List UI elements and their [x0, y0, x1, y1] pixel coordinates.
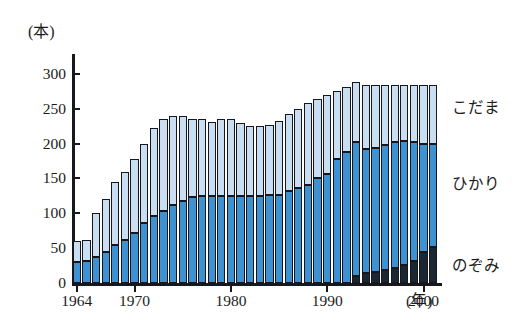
bar-segment	[419, 252, 427, 283]
y-tick-label: 0	[20, 275, 66, 291]
y-tick-label: 50	[20, 240, 66, 256]
legend-label-nozomi: のぞみ	[452, 258, 500, 274]
bar-segment	[159, 211, 167, 283]
bar-segment	[391, 85, 399, 142]
bar-segment	[236, 196, 244, 283]
bar-column	[140, 60, 148, 283]
bar-segment	[188, 197, 196, 283]
x-tick-label: 1970	[119, 293, 150, 309]
bar-segment	[246, 126, 254, 196]
bar-segment	[352, 276, 360, 283]
bar-segment	[419, 85, 427, 144]
bar-segment	[236, 123, 244, 196]
bar-column	[150, 60, 158, 283]
x-axis-line	[72, 283, 442, 286]
bar-segment	[217, 196, 225, 283]
bar-segment	[111, 182, 119, 245]
bar-segment	[400, 85, 408, 141]
y-tick-label: 200	[20, 136, 66, 152]
bar-segment	[400, 141, 408, 265]
bar-segment	[256, 126, 264, 196]
bar-column	[82, 60, 90, 283]
x-tick-label: 1980	[215, 293, 246, 309]
bar-column	[429, 60, 437, 283]
bar-column	[102, 60, 110, 283]
bar-segment	[419, 144, 427, 253]
bar-column	[342, 60, 350, 283]
bar-segment	[150, 128, 158, 216]
bar-segment	[179, 201, 187, 283]
bar-segment	[304, 185, 312, 283]
bar-segment	[429, 85, 437, 144]
bar-segment	[208, 196, 216, 283]
bar-segment	[208, 122, 216, 196]
bar-segment	[294, 188, 302, 283]
bar-segment	[410, 261, 418, 283]
bar-segment	[313, 99, 321, 178]
bar-segment	[265, 125, 273, 195]
bar-segment	[92, 257, 100, 283]
bar-segment	[227, 119, 235, 196]
bar-column	[391, 60, 399, 283]
bar-segment	[82, 261, 90, 283]
bar-segment	[73, 241, 81, 262]
bar-segment	[362, 85, 370, 149]
bar-segment	[159, 119, 167, 210]
bar-column	[265, 60, 273, 283]
bar-segment	[381, 85, 389, 145]
bar-column	[121, 60, 129, 283]
bar-column	[246, 60, 254, 283]
bar-column	[352, 60, 360, 283]
bar-column	[256, 60, 264, 283]
bar-column	[400, 60, 408, 283]
bar-column	[198, 60, 206, 283]
bar-segment	[111, 245, 119, 283]
y-tick-label: 150	[20, 171, 66, 187]
legend-label-hikari: ひかり	[452, 176, 500, 192]
bar-segment	[429, 247, 437, 283]
bar-segment	[362, 273, 370, 283]
bar-column	[130, 60, 138, 283]
bar-segment	[285, 191, 293, 283]
bar-segment	[371, 148, 379, 272]
bar-segment	[333, 91, 341, 159]
bar-column	[410, 60, 418, 283]
bar-segment	[313, 178, 321, 283]
bar-column	[275, 60, 283, 283]
bar-column	[92, 60, 100, 283]
bar-segment	[169, 116, 177, 205]
bar-segment	[217, 119, 225, 196]
bar-segment	[92, 213, 100, 256]
bar-segment	[275, 195, 283, 283]
bar-segment	[188, 119, 196, 197]
bar-segment	[150, 216, 158, 283]
bar-segment	[391, 268, 399, 283]
bar-column	[111, 60, 119, 283]
bar-column	[227, 60, 235, 283]
bar-column	[285, 60, 293, 283]
bar-segment	[285, 114, 293, 191]
x-tick-label: 1964	[61, 293, 92, 309]
bar-column	[179, 60, 187, 283]
bar-segment	[381, 145, 389, 270]
plot-area	[72, 60, 438, 283]
bar-segment	[342, 87, 350, 153]
bar-segment	[198, 119, 206, 196]
bar-segment	[362, 149, 370, 273]
bar-segment	[391, 142, 399, 267]
bar-segment	[102, 199, 110, 251]
bar-segment	[265, 195, 273, 283]
bar-segment	[130, 233, 138, 283]
bar-segment	[381, 270, 389, 283]
x-tick-label: 1990	[312, 293, 343, 309]
bar-column	[371, 60, 379, 283]
bar-segment	[323, 174, 331, 283]
bar-column	[208, 60, 216, 283]
bar-segment	[130, 159, 138, 233]
bar-column	[236, 60, 244, 283]
bar-column	[294, 60, 302, 283]
bar-segment	[275, 121, 283, 195]
bar-column	[73, 60, 81, 283]
bar-segment	[304, 103, 312, 185]
x-axis-unit-label: (年)	[406, 293, 432, 309]
